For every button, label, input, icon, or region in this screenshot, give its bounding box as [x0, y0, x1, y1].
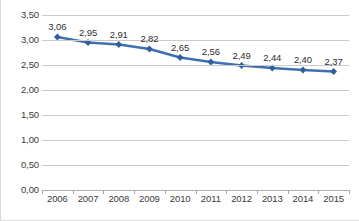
data-point-label: 3,06	[48, 21, 66, 32]
data-point-labels: 3,062,952,912,822,652,562,492,442,402,37	[42, 15, 349, 190]
x-axis-tick-mark	[349, 190, 350, 194]
data-point-label: 2,91	[110, 29, 128, 40]
data-point-label: 2,95	[79, 27, 97, 38]
line-chart: 0,000,501,001,502,002,503,003,50 2006200…	[0, 0, 359, 221]
y-axis-tick-label: 0,50	[3, 159, 39, 170]
data-point-label: 2,65	[171, 42, 189, 53]
y-axis-tick-label: 1,00	[3, 134, 39, 145]
data-point-label: 2,49	[233, 50, 251, 61]
y-axis-tick-label: 3,00	[3, 34, 39, 45]
x-axis-tick-label: 2010	[170, 193, 191, 204]
y-axis-tick-label: 2,00	[3, 84, 39, 95]
x-axis-tick-label: 2014	[293, 193, 314, 204]
y-axis-tick-label: 2,50	[3, 59, 39, 70]
x-axis-tick-label: 2011	[201, 193, 221, 204]
x-axis-tick-label: 2008	[108, 193, 129, 204]
x-axis-tick-label: 2015	[323, 193, 344, 204]
x-axis-tick-label: 2012	[231, 193, 252, 204]
data-point-label: 2,56	[202, 46, 220, 57]
x-axis-tick-label: 2006	[47, 193, 68, 204]
y-axis-tick-label: 0,00	[3, 184, 39, 195]
data-point-label: 2,44	[263, 52, 281, 63]
y-axis-tick-label: 3,50	[3, 9, 39, 20]
x-axis-tick-label: 2007	[78, 193, 99, 204]
data-point-label: 2,82	[140, 33, 158, 44]
x-axis-tick-labels: 2006200720082009201020112012201320142015	[42, 193, 349, 209]
x-axis-tick-label: 2013	[262, 193, 283, 204]
data-point-label: 2,40	[294, 54, 312, 65]
data-point-label: 2,37	[325, 56, 343, 67]
y-axis-tick-label: 1,50	[3, 109, 39, 120]
y-axis-tick-labels: 0,000,501,001,502,002,503,003,50	[1, 15, 39, 190]
x-axis-tick-label: 2009	[139, 193, 160, 204]
